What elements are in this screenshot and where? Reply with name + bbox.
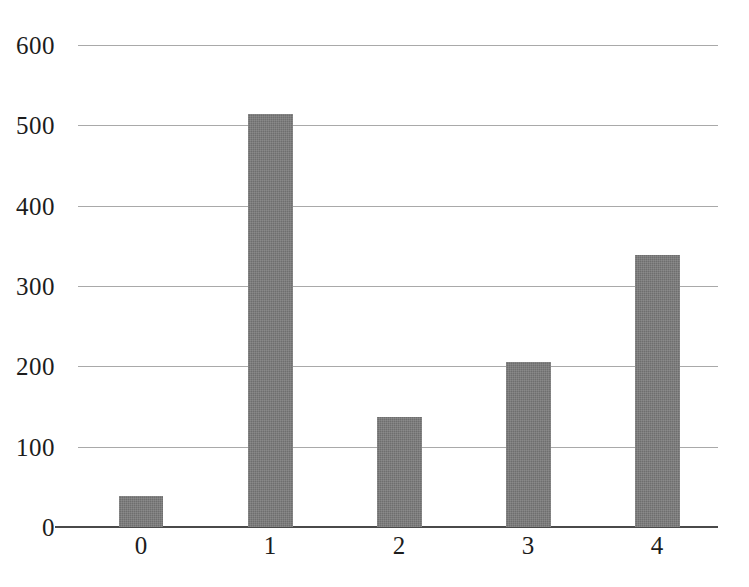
y-tick-label-500: 500 [3, 113, 55, 138]
y-tick-label-200: 200 [3, 354, 55, 379]
x-tick-label-4: 4 [627, 533, 687, 558]
y-tick-label-600: 600 [3, 33, 55, 58]
bars-layer [55, 45, 718, 527]
y-axis: 600 500 400 300 200 100 0 [0, 45, 55, 527]
y-tick-label-100: 100 [3, 435, 55, 460]
bar-2[interactable] [377, 417, 422, 527]
bar-chart: 600 500 400 300 200 100 0 0 1 2 3 4 [0, 0, 749, 587]
x-tick-label-1: 1 [240, 533, 300, 558]
bar-4[interactable] [635, 255, 680, 527]
x-tick-label-3: 3 [498, 533, 558, 558]
x-tick-label-2: 2 [369, 533, 429, 558]
bar-1[interactable] [248, 114, 293, 527]
y-tick-label-300: 300 [3, 274, 55, 299]
bar-0[interactable] [119, 496, 163, 527]
bar-3[interactable] [506, 362, 551, 528]
x-tick-label-0: 0 [111, 533, 171, 558]
y-tick-label-400: 400 [3, 194, 55, 219]
y-tick-label-0: 0 [3, 515, 55, 540]
